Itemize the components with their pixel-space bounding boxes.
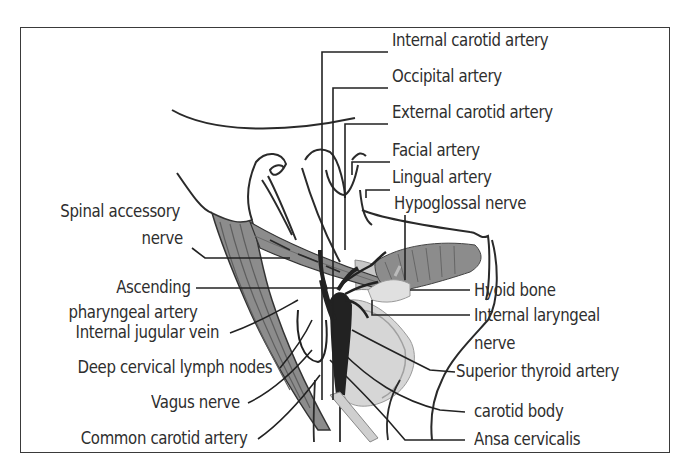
label-external-carotid-artery: External carotid artery — [392, 102, 553, 122]
label-internal-laryngeal-nerve: Internal laryngeal — [474, 305, 600, 325]
label-spinal-accessory-nerve: Spinal accessory — [60, 201, 180, 221]
label-lingual-artery: Lingual artery — [392, 167, 491, 187]
label-internal-jugular-vein: Internal jugular vein — [75, 322, 219, 342]
label-spinal-accessory-nerve-cont: nerve — [142, 228, 183, 248]
label-deep-cervical-lymph-nodes: Deep cervical lymph nodes — [77, 357, 272, 377]
anatomy-illustration — [0, 0, 685, 467]
label-ansa-cervicalis: Ansa cervicalis — [474, 429, 580, 449]
label-common-carotid-artery: Common carotid artery — [81, 428, 248, 448]
label-ascending-pharyngeal-artery: Ascending — [117, 277, 191, 297]
label-hyoid-bone: Hyoid bone — [474, 280, 555, 300]
label-superior-thyroid-artery: Superior thyroid artery — [456, 361, 619, 381]
label-internal-laryngeal-nerve-cont: nerve — [474, 333, 515, 353]
label-occipital-artery: Occipital artery — [392, 66, 502, 86]
label-facial-artery: Facial artery — [392, 140, 480, 160]
label-internal-carotid-artery: Internal carotid artery — [392, 30, 548, 50]
label-vagus-nerve: Vagus nerve — [151, 392, 240, 412]
label-ascending-pharyngeal-artery-cont: pharyngeal artery — [68, 302, 197, 322]
label-hypoglossal-nerve: Hypoglossal nerve — [394, 193, 526, 213]
label-carotid-body: carotid body — [474, 401, 563, 421]
